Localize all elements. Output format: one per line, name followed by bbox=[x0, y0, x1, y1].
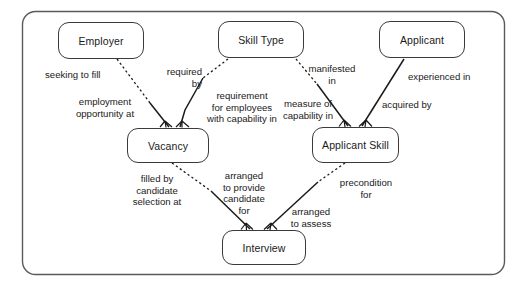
entity-applicant-label: Applicant bbox=[400, 34, 444, 46]
label-requirement-for-employees: requirement for employees with capabilit… bbox=[196, 90, 288, 125]
label-acquired-by: acquired by bbox=[382, 99, 446, 111]
label-arranged-to-assess: arranged to assess bbox=[282, 206, 340, 229]
entity-skill-type-label: Skill Type bbox=[238, 34, 284, 46]
label-manifested-in: manifested in bbox=[303, 63, 361, 86]
entity-interview[interactable]: Interview bbox=[222, 230, 306, 265]
entity-vacancy-label: Vacancy bbox=[148, 140, 188, 152]
label-precondition-for: precondition for bbox=[333, 177, 399, 200]
label-required-by: required by bbox=[150, 66, 202, 89]
entity-skill-type[interactable]: Skill Type bbox=[218, 21, 304, 58]
label-seeking-to-fill: seeking to fill bbox=[45, 69, 125, 81]
entity-interview-label: Interview bbox=[243, 242, 286, 254]
label-experienced-in: experienced in bbox=[408, 71, 488, 83]
label-employment-opportunity-at: employment opportunity at bbox=[60, 96, 150, 119]
entity-applicant-skill-label: Applicant Skill bbox=[322, 139, 389, 151]
entity-vacancy[interactable]: Vacancy bbox=[127, 128, 209, 163]
entity-employer[interactable]: Employer bbox=[58, 22, 144, 59]
label-measure-of-capability-in: measure of capability in bbox=[276, 98, 340, 121]
label-arranged-to-provide-candidate-for: arranged to provide candidate for bbox=[216, 170, 272, 216]
diagram-canvas: Employer Skill Type Applicant Vacancy Ap… bbox=[0, 0, 528, 285]
label-filled-by-candidate-selection-at: filled by candidate selection at bbox=[120, 173, 194, 208]
entity-applicant[interactable]: Applicant bbox=[379, 21, 465, 58]
entity-applicant-skill[interactable]: Applicant Skill bbox=[312, 127, 399, 163]
entity-employer-label: Employer bbox=[78, 35, 123, 47]
relationship-applicant-applicantskill bbox=[359, 59, 404, 127]
